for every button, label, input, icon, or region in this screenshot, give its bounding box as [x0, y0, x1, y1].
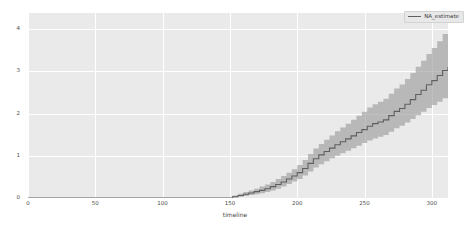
- x-tick-label: 150: [225, 201, 236, 207]
- x-tick-label: 0: [26, 201, 30, 207]
- confidence-band: [28, 20, 448, 198]
- x-tick-label: 300: [427, 201, 438, 207]
- y-axis-ticks: 01234: [0, 0, 28, 238]
- y-tick-label: 3: [0, 68, 20, 74]
- y-tick-label: 0: [0, 195, 20, 201]
- chart-figure: 01234 050100150200250300 timeline NA_est…: [0, 0, 470, 238]
- plot-area: [28, 13, 448, 198]
- y-tick-label: 2: [0, 111, 20, 117]
- legend-line-swatch: [408, 16, 421, 17]
- y-tick-label: 1: [0, 153, 20, 159]
- x-tick-label: 50: [92, 201, 99, 207]
- chart-data-layer: [28, 13, 448, 198]
- legend[interactable]: NA_estimate: [404, 11, 464, 23]
- x-tick-label: 250: [359, 201, 370, 207]
- x-axis-label: timeline: [0, 212, 470, 218]
- x-tick-label: 200: [292, 201, 303, 207]
- y-tick-label: 4: [0, 26, 20, 32]
- legend-label-na-estimate: NA_estimate: [424, 14, 459, 20]
- x-tick-label: 100: [157, 201, 168, 207]
